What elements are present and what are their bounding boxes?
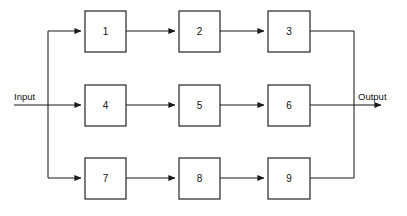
block-7[interactable]: 7: [85, 158, 126, 199]
block-1[interactable]: 1: [85, 11, 126, 52]
output-label: Output: [358, 91, 387, 102]
block-3-label: 3: [286, 26, 292, 37]
input-label: Input: [14, 91, 35, 102]
block-6-label: 6: [286, 100, 292, 111]
block-3[interactable]: 3: [268, 11, 310, 52]
input-wire-group: [14, 31, 48, 178]
block-9-label: 9: [286, 173, 292, 184]
block-4[interactable]: 4: [85, 85, 126, 126]
diagram-canvas: 1 2 3 4 5 6 7 8: [0, 0, 407, 216]
block-4-label: 4: [103, 100, 109, 111]
block-8[interactable]: 8: [179, 158, 220, 199]
output-wire-group: [354, 31, 381, 178]
block-8-label: 8: [197, 173, 203, 184]
block-1-label: 1: [103, 26, 109, 37]
left-branch-wires: [48, 31, 81, 178]
block-5[interactable]: 5: [179, 85, 220, 126]
block-2-label: 2: [197, 26, 203, 37]
block-6[interactable]: 6: [268, 85, 310, 126]
block-5-label: 5: [197, 100, 203, 111]
block-diagram: 1 2 3 4 5 6 7 8: [0, 0, 407, 216]
block-9[interactable]: 9: [268, 158, 310, 199]
block-7-label: 7: [103, 173, 109, 184]
block-2[interactable]: 2: [179, 11, 220, 52]
